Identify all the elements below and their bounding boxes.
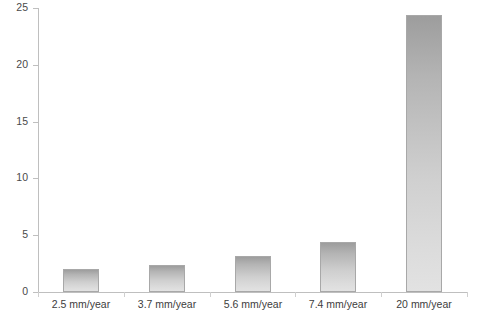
y-tick-mark [33,122,38,123]
y-tick-label: 10 [0,172,28,183]
x-axis-line [38,292,467,293]
y-tick-label: 15 [0,116,28,127]
x-tick-mark [467,292,468,297]
x-category-label: 3.7 mm/year [124,298,210,311]
y-axis-line [38,8,39,292]
y-tick-label: 20 [0,59,28,70]
bar [235,256,271,292]
y-tick-label: 25 [0,2,28,13]
x-tick-mark [295,292,296,297]
bar [63,269,99,292]
x-tick-mark [124,292,125,297]
x-tick-mark [210,292,211,297]
x-category-label: 7.4 mm/year [295,298,381,311]
x-category-label: 2.5 mm/year [38,298,124,311]
x-tick-mark [38,292,39,297]
y-tick-label: 0 [0,286,28,297]
y-tick-mark [33,178,38,179]
y-tick-mark [33,235,38,236]
x-category-label: 20 mm/year [381,298,467,311]
bar [320,242,356,292]
y-tick-label: 5 [0,229,28,240]
bar [149,265,185,292]
x-tick-mark [381,292,382,297]
y-tick-mark [33,65,38,66]
x-category-label: 5.6 mm/year [210,298,296,311]
bar-chart: 0510152025 2.5 mm/year3.7 mm/year5.6 mm/… [0,0,477,319]
y-tick-mark [33,8,38,9]
bar [406,15,442,292]
